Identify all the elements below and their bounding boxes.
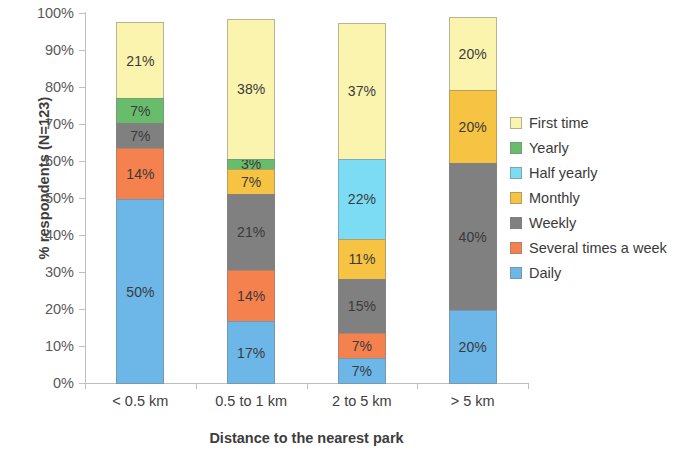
bar-segment-label: 7%: [352, 364, 372, 378]
bar-segment[interactable]: 7%: [338, 333, 386, 359]
legend-label: Weekly: [529, 215, 576, 231]
bar-segment[interactable]: 22%: [338, 159, 386, 240]
legend-swatch-icon: [510, 142, 522, 154]
y-tick-label: 100%: [28, 6, 74, 21]
bar-1[interactable]: 21%7%7%14%50%: [116, 22, 164, 383]
y-tick-label: 30%: [28, 265, 74, 280]
bar-segment[interactable]: 40%: [449, 163, 497, 311]
legend-item[interactable]: First time: [510, 110, 667, 135]
y-tick-label: 10%: [28, 339, 74, 354]
legend-label: Half yearly: [529, 165, 598, 181]
bar-segment-label: 20%: [459, 340, 487, 354]
bar-segment-label: 14%: [126, 167, 154, 181]
bar-segment[interactable]: 38%: [227, 19, 275, 160]
bar-2[interactable]: 38%3%7%21%14%17%: [227, 19, 275, 383]
legend-item[interactable]: Half yearly: [510, 160, 667, 185]
bar-segment-label: 17%: [237, 346, 265, 360]
bar-segment-label: 15%: [348, 299, 376, 313]
legend-swatch-icon: [510, 192, 522, 204]
bar-segment-label: 37%: [348, 84, 376, 98]
bar-segment[interactable]: 20%: [449, 310, 497, 384]
chart-legend: First timeYearlyHalf yearlyMonthlyWeekly…: [510, 110, 667, 285]
bar-segment[interactable]: 37%: [338, 23, 386, 160]
x-tick-label: > 5 km: [408, 393, 538, 409]
legend-swatch-icon: [510, 242, 522, 254]
y-tick-label: 20%: [28, 302, 74, 317]
legend-item[interactable]: Monthly: [510, 185, 667, 210]
legend-item[interactable]: Weekly: [510, 210, 667, 235]
bar-segment-label: 21%: [126, 54, 154, 68]
x-tick-mark: [85, 383, 86, 389]
bar-segment-label: 20%: [459, 47, 487, 61]
bar-segment[interactable]: 11%: [338, 239, 386, 280]
y-tick-label: 50%: [28, 191, 74, 206]
bar-segment[interactable]: 50%: [116, 199, 164, 384]
legend-label: Daily: [529, 265, 561, 281]
bar-segment-label: 50%: [126, 285, 154, 299]
legend-item[interactable]: Several times a week: [510, 235, 667, 260]
legend-swatch-icon: [510, 217, 522, 229]
legend-label: Yearly: [529, 140, 569, 156]
stacked-bar-chart: % respondents (N=123) 100%90%80%70%60%50…: [0, 0, 700, 462]
bar-segment[interactable]: 7%: [338, 358, 386, 384]
x-tick-mark: [196, 383, 197, 389]
bar-segment-label: 7%: [130, 129, 150, 143]
bar-segment[interactable]: 7%: [116, 123, 164, 149]
y-tick-label: 70%: [28, 117, 74, 132]
bar-segment-label: 40%: [459, 230, 487, 244]
x-tick-mark: [307, 383, 308, 389]
bar-segment[interactable]: 14%: [116, 148, 164, 200]
bar-segment-label: 7%: [241, 175, 261, 189]
bar-segment-label: 38%: [237, 82, 265, 96]
bar-3[interactable]: 37%22%11%15%7%7%: [338, 23, 386, 383]
bar-segment[interactable]: 14%: [227, 270, 275, 322]
legend-swatch-icon: [510, 117, 522, 129]
legend-label: Monthly: [529, 190, 580, 206]
y-tick-label: 80%: [28, 80, 74, 95]
x-tick-mark: [528, 383, 529, 389]
bar-segment[interactable]: 15%: [338, 279, 386, 335]
legend-label: Several times a week: [529, 240, 667, 256]
legend-swatch-icon: [510, 167, 522, 179]
bar-segment-label: 11%: [348, 252, 375, 266]
legend-swatch-icon: [510, 267, 522, 279]
x-axis-title: Distance to the nearest park: [85, 430, 528, 446]
legend-item[interactable]: Yearly: [510, 135, 667, 160]
legend-label: First time: [529, 115, 589, 131]
bar-4[interactable]: 20%20%40%20%: [449, 17, 497, 383]
bar-segment[interactable]: 7%: [227, 169, 275, 195]
bar-segment[interactable]: 17%: [227, 321, 275, 384]
y-tick-label: 0%: [28, 376, 74, 391]
bar-segment[interactable]: 21%: [227, 194, 275, 272]
bar-segment-label: 14%: [237, 289, 265, 303]
bar-segment[interactable]: 21%: [116, 22, 164, 100]
bar-segment-label: 22%: [348, 192, 376, 206]
y-tick-label: 90%: [28, 43, 74, 58]
y-tick-label: 60%: [28, 154, 74, 169]
plot-area: 21%7%7%14%50%38%3%7%21%14%17%37%22%11%15…: [85, 13, 528, 383]
bar-segment-label: 7%: [352, 339, 372, 353]
bar-segment-label: 7%: [130, 104, 150, 118]
bar-segment[interactable]: 20%: [449, 90, 497, 164]
bar-segment[interactable]: 7%: [116, 98, 164, 124]
bar-segment-label: 20%: [459, 120, 487, 134]
legend-item[interactable]: Daily: [510, 260, 667, 285]
x-tick-mark: [417, 383, 418, 389]
bar-segment-label: 21%: [237, 225, 265, 239]
y-tick-label: 40%: [28, 228, 74, 243]
bar-segment[interactable]: 20%: [449, 17, 497, 91]
